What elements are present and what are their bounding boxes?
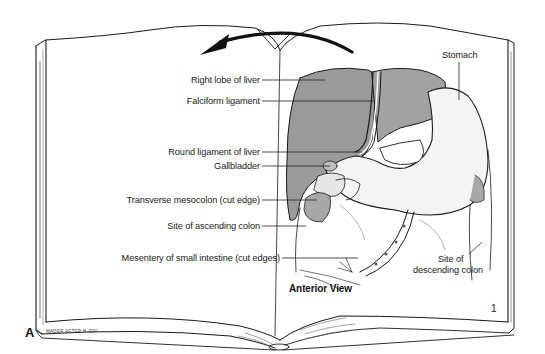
page-number: 1 — [491, 303, 497, 314]
view-label: Anterior View — [289, 283, 352, 294]
label-mesentery-small-intestine: Mesentery of small intestine (cut edges) — [122, 253, 280, 263]
label-gallbladder: Gallbladder — [214, 161, 260, 171]
label-falciform-ligament: Falciform ligament — [187, 96, 260, 106]
label-site-of-descending-colon-line1: Site of — [438, 254, 463, 264]
label-site-of-descending-colon-line2: descending colon — [413, 265, 483, 275]
illustrator-credit: MADER AFTER H.JOY — [46, 329, 98, 334]
label-round-ligament-of-liver: Round ligament of liver — [168, 147, 260, 157]
panel-letter: A — [25, 325, 34, 340]
label-transverse-mesocolon: Transverse mesocolon (cut edge) — [127, 195, 260, 205]
label-site-of-ascending-colon: Site of ascending colon — [167, 221, 260, 231]
page-turn-arrow-icon — [200, 33, 352, 55]
label-right-lobe-of-liver: Right lobe of liver — [191, 75, 260, 85]
label-stomach: Stomach — [442, 50, 478, 60]
